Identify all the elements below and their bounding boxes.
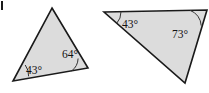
triangles-canvas: 43° 64° 43° 73° bbox=[0, 0, 209, 93]
angle-73-right-triangle-label: 73° bbox=[172, 28, 189, 40]
angle-43-left-triangle-label: 43° bbox=[26, 64, 43, 76]
left-triangle-shape bbox=[13, 8, 88, 81]
geometry-figure: 43° 64° 43° 73° bbox=[0, 0, 209, 93]
left-triangle: 43° 64° bbox=[13, 8, 88, 81]
right-triangle: 43° 73° bbox=[104, 10, 207, 83]
angle-64-left-triangle-label: 64° bbox=[62, 48, 79, 60]
angle-43-right-triangle-label: 43° bbox=[122, 18, 139, 30]
right-triangle-shape bbox=[104, 10, 207, 83]
